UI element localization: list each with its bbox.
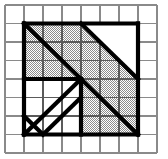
figure-container — [0, 0, 168, 159]
grid-figure-svg — [0, 0, 168, 159]
